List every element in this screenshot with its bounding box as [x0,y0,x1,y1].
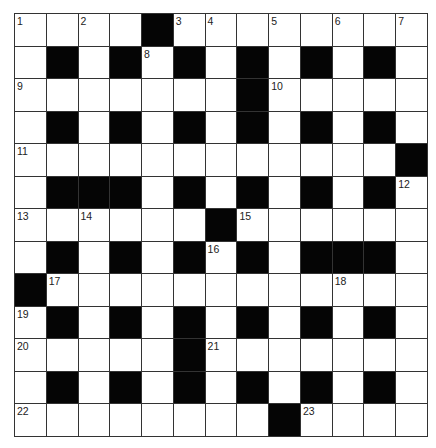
answer-cell[interactable] [174,79,205,111]
answer-cell[interactable] [110,79,141,111]
answer-cell[interactable] [142,372,173,404]
answer-cell[interactable] [142,177,173,209]
answer-cell[interactable] [15,112,46,144]
answer-cell[interactable] [269,372,300,404]
answer-cell[interactable] [269,339,300,371]
answer-cell[interactable]: 16 [206,242,237,274]
answer-cell[interactable] [364,274,395,306]
answer-cell[interactable] [15,177,46,209]
answer-cell[interactable] [206,79,237,111]
answer-cell[interactable] [142,404,173,436]
answer-cell[interactable] [364,14,395,46]
answer-cell[interactable] [301,79,332,111]
answer-cell[interactable] [47,404,78,436]
answer-cell[interactable] [47,14,78,46]
answer-cell[interactable]: 19 [15,307,46,339]
answer-cell[interactable] [333,177,364,209]
answer-cell[interactable] [110,404,141,436]
answer-cell[interactable]: 17 [47,274,78,306]
answer-cell[interactable] [206,307,237,339]
answer-cell[interactable] [206,274,237,306]
answer-cell[interactable]: 15 [237,209,268,241]
answer-cell[interactable]: 7 [396,14,427,46]
answer-cell[interactable] [79,339,110,371]
answer-cell[interactable] [79,307,110,339]
answer-cell[interactable]: 6 [333,14,364,46]
answer-cell[interactable] [364,339,395,371]
answer-cell[interactable] [333,372,364,404]
answer-cell[interactable] [269,144,300,176]
answer-cell[interactable] [269,47,300,79]
answer-cell[interactable] [333,79,364,111]
answer-cell[interactable] [174,274,205,306]
answer-cell[interactable]: 22 [15,404,46,436]
answer-cell[interactable]: 9 [15,79,46,111]
answer-cell[interactable] [142,307,173,339]
answer-cell[interactable] [301,274,332,306]
answer-cell[interactable] [396,209,427,241]
answer-cell[interactable] [110,144,141,176]
answer-cell[interactable] [15,372,46,404]
answer-cell[interactable] [174,404,205,436]
answer-cell[interactable] [396,404,427,436]
answer-cell[interactable] [396,339,427,371]
answer-cell[interactable]: 1 [15,14,46,46]
answer-cell[interactable]: 2 [79,14,110,46]
answer-cell[interactable]: 3 [174,14,205,46]
answer-cell[interactable] [364,404,395,436]
answer-cell[interactable]: 11 [15,144,46,176]
answer-cell[interactable] [396,79,427,111]
answer-cell[interactable] [174,209,205,241]
answer-cell[interactable]: 10 [269,79,300,111]
answer-cell[interactable] [142,339,173,371]
answer-cell[interactable] [142,79,173,111]
answer-cell[interactable] [79,404,110,436]
answer-cell[interactable] [79,242,110,274]
answer-cell[interactable] [301,209,332,241]
answer-cell[interactable] [47,79,78,111]
answer-cell[interactable] [333,144,364,176]
answer-cell[interactable] [79,274,110,306]
answer-cell[interactable] [333,112,364,144]
answer-cell[interactable] [333,307,364,339]
answer-cell[interactable] [174,144,205,176]
answer-cell[interactable] [79,47,110,79]
answer-cell[interactable] [206,404,237,436]
answer-cell[interactable] [364,79,395,111]
answer-cell[interactable] [79,112,110,144]
answer-cell[interactable] [396,112,427,144]
answer-cell[interactable] [269,209,300,241]
answer-cell[interactable] [269,274,300,306]
answer-cell[interactable] [206,372,237,404]
answer-cell[interactable] [47,144,78,176]
answer-cell[interactable] [237,339,268,371]
answer-cell[interactable] [15,47,46,79]
answer-cell[interactable] [301,14,332,46]
answer-cell[interactable] [47,339,78,371]
answer-cell[interactable] [269,242,300,274]
answer-cell[interactable] [364,209,395,241]
answer-cell[interactable] [333,339,364,371]
answer-cell[interactable] [206,177,237,209]
answer-cell[interactable] [142,209,173,241]
answer-cell[interactable] [79,372,110,404]
answer-cell[interactable] [206,47,237,79]
answer-cell[interactable] [206,144,237,176]
answer-cell[interactable] [396,47,427,79]
answer-cell[interactable]: 14 [79,209,110,241]
answer-cell[interactable] [396,242,427,274]
answer-cell[interactable] [142,274,173,306]
answer-cell[interactable] [15,242,46,274]
answer-cell[interactable] [237,274,268,306]
answer-cell[interactable] [110,339,141,371]
answer-cell[interactable] [301,339,332,371]
answer-cell[interactable] [142,144,173,176]
answer-cell[interactable] [79,144,110,176]
answer-cell[interactable] [110,274,141,306]
answer-cell[interactable] [110,14,141,46]
answer-cell[interactable] [206,112,237,144]
answer-cell[interactable] [142,112,173,144]
answer-cell[interactable]: 8 [142,47,173,79]
answer-cell[interactable]: 20 [15,339,46,371]
answer-cell[interactable]: 4 [206,14,237,46]
